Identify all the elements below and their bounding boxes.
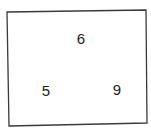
diagram-canvas: 6 5 9 [0, 0, 151, 132]
label-bottom-left-number: 5 [42, 83, 50, 98]
rectangle-frame [0, 0, 151, 132]
rectangle-outline [7, 10, 147, 126]
label-top-number: 6 [77, 31, 85, 46]
label-bottom-right-number: 9 [113, 82, 121, 97]
